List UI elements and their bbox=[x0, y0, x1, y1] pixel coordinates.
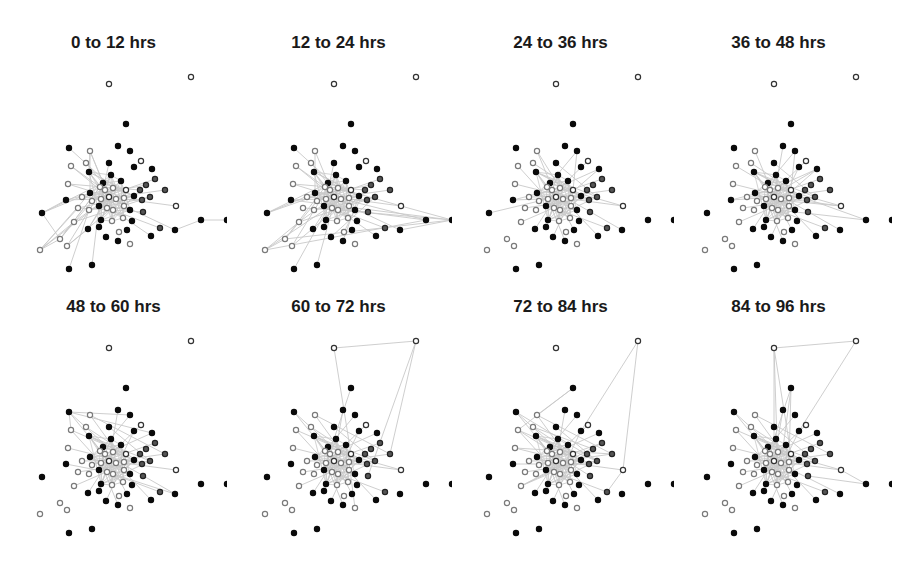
network-node bbox=[121, 195, 126, 200]
network-node bbox=[121, 459, 126, 464]
network-node bbox=[335, 207, 340, 212]
network-node bbox=[744, 194, 749, 199]
network-node bbox=[534, 148, 539, 153]
network-node bbox=[75, 205, 80, 210]
network-graph bbox=[225, 282, 452, 564]
network-node bbox=[363, 422, 368, 427]
network-node bbox=[794, 218, 799, 223]
network-node bbox=[398, 467, 403, 472]
network-node bbox=[751, 433, 756, 438]
network-node bbox=[513, 530, 518, 535]
network-node bbox=[173, 203, 178, 208]
network-graph bbox=[0, 0, 227, 282]
network-node bbox=[106, 345, 111, 350]
network-node bbox=[771, 81, 776, 86]
network-node bbox=[124, 227, 129, 232]
network-node bbox=[115, 143, 120, 148]
network-node bbox=[116, 493, 121, 498]
network-panel-36-48h: 36 to 48 hrs bbox=[665, 0, 892, 282]
network-node bbox=[118, 178, 123, 183]
network-node bbox=[348, 121, 353, 126]
network-node bbox=[752, 412, 757, 417]
network-node bbox=[96, 224, 101, 229]
network-node bbox=[311, 169, 316, 174]
network-node bbox=[557, 185, 562, 190]
network-node bbox=[729, 507, 734, 512]
network-node bbox=[761, 467, 766, 472]
network-node bbox=[98, 196, 103, 201]
network-node bbox=[775, 449, 780, 454]
network-node bbox=[722, 236, 727, 241]
network-node bbox=[740, 469, 745, 474]
network-node bbox=[338, 460, 343, 465]
network-node bbox=[129, 218, 134, 223]
network-node bbox=[68, 427, 73, 432]
network-node bbox=[754, 462, 759, 467]
network-node bbox=[87, 148, 92, 153]
network-node bbox=[543, 488, 548, 493]
network-node bbox=[594, 194, 599, 199]
network-node bbox=[733, 427, 738, 432]
network-node bbox=[282, 500, 287, 505]
network-node bbox=[556, 218, 561, 223]
network-node bbox=[312, 190, 317, 195]
network-node bbox=[354, 482, 359, 487]
network-node bbox=[264, 474, 269, 479]
network-node bbox=[570, 187, 575, 192]
network-node bbox=[335, 449, 340, 454]
network-node bbox=[68, 163, 73, 168]
network-node bbox=[331, 424, 336, 429]
network-graph bbox=[665, 0, 892, 282]
network-node bbox=[557, 449, 562, 454]
network-node bbox=[553, 81, 558, 86]
network-node bbox=[510, 461, 515, 466]
network-node bbox=[290, 181, 295, 186]
network-node bbox=[75, 469, 80, 474]
network-node bbox=[110, 207, 115, 212]
network-node bbox=[808, 446, 813, 451]
network-node bbox=[728, 461, 733, 466]
network-node bbox=[570, 451, 575, 456]
network-node bbox=[805, 209, 810, 214]
network-panel-72-84h: 72 to 84 hrs bbox=[447, 282, 674, 564]
network-node bbox=[751, 207, 756, 212]
network-node bbox=[162, 451, 167, 456]
network-node bbox=[311, 433, 316, 438]
network-node bbox=[736, 219, 741, 224]
network-node bbox=[312, 454, 317, 459]
network-node bbox=[785, 479, 790, 484]
network-node bbox=[532, 490, 537, 495]
network-node bbox=[110, 471, 115, 476]
network-node bbox=[704, 210, 709, 215]
network-node bbox=[484, 247, 489, 252]
network-node bbox=[345, 215, 350, 220]
network-node bbox=[587, 209, 592, 214]
network-node bbox=[373, 497, 378, 502]
network-node bbox=[123, 451, 128, 456]
network-node bbox=[356, 193, 361, 198]
network-node bbox=[604, 489, 609, 494]
network-node bbox=[288, 197, 293, 202]
network-node bbox=[334, 218, 339, 223]
network-node bbox=[571, 227, 576, 232]
network-node bbox=[769, 205, 774, 210]
network-node bbox=[518, 219, 523, 224]
network-node bbox=[291, 145, 296, 150]
network-node bbox=[576, 218, 581, 223]
network-node bbox=[802, 187, 807, 192]
network-node bbox=[89, 198, 94, 203]
network-node bbox=[139, 197, 144, 202]
network-node bbox=[584, 187, 589, 192]
network-node bbox=[113, 196, 118, 201]
network-node bbox=[66, 530, 71, 535]
network-node bbox=[889, 481, 892, 486]
network-node bbox=[635, 338, 640, 343]
network-node bbox=[769, 469, 774, 474]
network-node bbox=[783, 178, 788, 183]
network-node bbox=[562, 502, 567, 507]
network-node bbox=[786, 467, 791, 472]
network-node bbox=[327, 451, 332, 456]
network-node bbox=[413, 74, 418, 79]
network-node bbox=[794, 482, 799, 487]
network-node bbox=[788, 121, 793, 126]
